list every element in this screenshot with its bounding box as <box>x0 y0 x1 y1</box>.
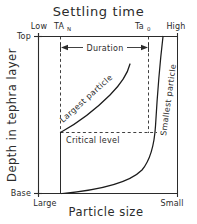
tick-label-base: Base <box>11 189 31 198</box>
marker-ta-0-subscript: 0 <box>147 26 151 32</box>
marker-label-ta-n: TA N <box>53 22 71 32</box>
x-axis-title: Particle size <box>69 205 144 219</box>
tick-label-large: Large <box>33 199 57 208</box>
marker-ta-n-base: TA <box>53 22 64 31</box>
largest-particle-curve <box>61 64 131 133</box>
smallest-particle-label: Smallest particle <box>159 63 178 136</box>
marker-ta-0-base: Ta <box>134 22 144 31</box>
smallest-particle-curve <box>62 37 163 194</box>
duration-label: Duration <box>86 44 123 53</box>
duration-arrowhead-right <box>141 45 148 50</box>
chart-title: Settling time <box>53 4 144 19</box>
critical-level-label: Critical level <box>66 136 120 145</box>
settling-time-figure: Settling time Low High TA N Ta 0 Top Bas… <box>0 0 197 224</box>
y-axis-title: Depth in tephra layer <box>5 48 19 182</box>
marker-label-ta-0: Ta 0 <box>134 22 151 32</box>
tick-label-low: Low <box>31 22 48 31</box>
marker-ta-n-subscript: N <box>67 26 71 32</box>
tick-label-small: Small <box>160 199 183 208</box>
duration-annotation: Duration <box>61 43 149 53</box>
duration-arrowhead-left <box>61 45 68 50</box>
tick-label-high: High <box>166 22 185 31</box>
tick-label-top: Top <box>16 32 31 41</box>
